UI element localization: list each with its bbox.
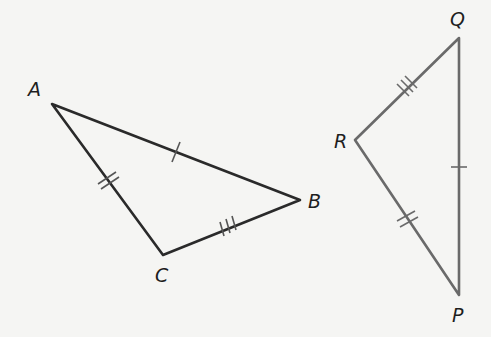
vertex-label-b: B bbox=[308, 190, 321, 212]
triangle-abc-tick-marks bbox=[98, 142, 236, 236]
triangle-pqr bbox=[355, 38, 459, 295]
triangle-abc bbox=[52, 104, 300, 255]
vertex-label-a: A bbox=[28, 78, 41, 100]
tick-cb-1 bbox=[220, 222, 224, 236]
vertex-label-q: Q bbox=[450, 8, 465, 30]
vertex-label-r: R bbox=[334, 130, 347, 152]
triangles-svg bbox=[0, 0, 491, 337]
tick-cb-2 bbox=[226, 219, 230, 233]
triangle-pqr-tick-marks bbox=[397, 76, 467, 227]
tick-ac-1 bbox=[98, 172, 116, 184]
congruent-triangles-diagram: A B C Q R P bbox=[0, 0, 491, 337]
vertex-label-p: P bbox=[452, 304, 463, 326]
tick-ac-2 bbox=[101, 177, 119, 189]
vertex-label-c: C bbox=[155, 264, 168, 286]
triangle-abc-outline bbox=[52, 104, 300, 255]
triangle-pqr-outline bbox=[355, 38, 459, 295]
